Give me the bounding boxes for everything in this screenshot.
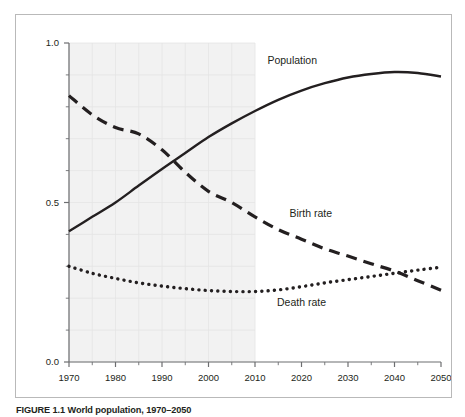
x-axis-tick-label: 1990 — [151, 372, 172, 383]
figure-caption: FIGURE 1.1 World population, 1970–2050 — [16, 404, 446, 416]
series-inline-label: Death rate — [277, 296, 326, 308]
chart-frame: 0.00.51.0 197019801990200020102020203020… — [15, 14, 452, 398]
series-inline-label: Birth rate — [289, 207, 332, 219]
series-inline-label: Population — [267, 54, 317, 66]
y-axis-tick-label: 0.5 — [46, 197, 59, 208]
x-axis-tick-label: 1970 — [58, 372, 79, 383]
x-axis-tick-label: 2030 — [337, 372, 358, 383]
x-axis-tick-label: 2000 — [198, 372, 219, 383]
x-axis-tick-labels: 197019801990200020102020203020402050 — [58, 372, 451, 383]
x-axis-tick-label: 2010 — [244, 372, 265, 383]
y-axis-tick-label: 0.0 — [46, 356, 59, 367]
figure-caption-label: FIGURE 1.1 — [16, 405, 65, 415]
x-axis-tick-label: 2050 — [430, 372, 451, 383]
y-axis-tick-label: 1.0 — [46, 37, 59, 48]
figure-caption-text: World population, 1970–2050 — [68, 405, 192, 415]
world-population-line-chart: 0.00.51.0 197019801990200020102020203020… — [16, 15, 451, 397]
x-axis-tick-label: 1980 — [105, 372, 126, 383]
x-axis-tick-label: 2020 — [291, 372, 312, 383]
x-axis-tick-label: 2040 — [384, 372, 405, 383]
figure-container: 0.00.51.0 197019801990200020102020203020… — [0, 0, 465, 417]
y-axis-tick-labels: 0.00.51.0 — [46, 37, 59, 367]
